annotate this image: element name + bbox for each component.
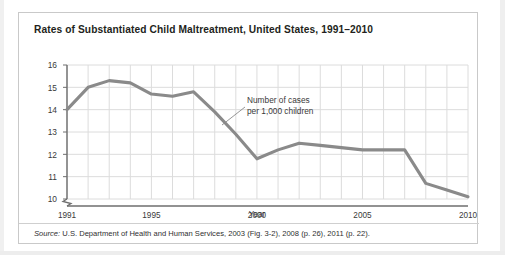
- page-edge-bottom: [0, 251, 505, 255]
- source-divider: [19, 223, 479, 224]
- y-axis-tick-label: 10: [48, 194, 58, 204]
- y-axis-tick-label: 11: [48, 172, 57, 182]
- x-axis-title: Year: [19, 210, 479, 219]
- page: Rates of Substantiated Child Maltreatmen…: [0, 0, 505, 255]
- source-text: U.S. Department of Health and Human Serv…: [60, 229, 370, 238]
- y-axis-tick-label: 12: [48, 150, 58, 160]
- y-axis-tick-label: 16: [48, 60, 58, 70]
- figure-source: Source: U.S. Department of Health and Hu…: [34, 229, 370, 238]
- page-edge-right: [500, 0, 505, 255]
- y-axis-break-mark: [63, 199, 71, 206]
- y-axis-tick-label: 14: [48, 105, 58, 115]
- y-axis-tick-label: 13: [48, 127, 58, 137]
- chart-annotation: Number of cases per 1,000 children: [247, 95, 313, 116]
- x-axis-title-text: Year: [249, 210, 266, 219]
- source-label: Source:: [34, 229, 60, 238]
- figure-card: Rates of Substantiated Child Maltreatmen…: [18, 12, 478, 244]
- chart-annotation-line-1: Number of cases: [247, 95, 313, 106]
- chart-annotation-line-2: per 1,000 children: [247, 106, 313, 117]
- page-edge-left: [0, 0, 4, 255]
- y-axis-tick-label: 15: [48, 83, 58, 93]
